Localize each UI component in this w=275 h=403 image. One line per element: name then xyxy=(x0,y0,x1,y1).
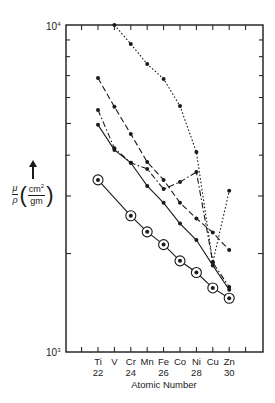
point-marker xyxy=(178,259,182,263)
point-marker xyxy=(194,238,198,242)
point-marker xyxy=(162,187,166,191)
element-symbol-label: Co xyxy=(174,356,186,367)
atomic-number-label: 26 xyxy=(158,367,169,378)
element-symbol-label: Ni xyxy=(192,356,201,367)
point-marker xyxy=(178,222,182,226)
element-symbol-label: Zn xyxy=(224,356,235,367)
data-series xyxy=(93,23,234,303)
point-marker xyxy=(145,160,149,164)
point-marker xyxy=(129,132,133,136)
point-marker xyxy=(129,214,133,218)
series-circled xyxy=(93,175,234,303)
point-marker xyxy=(112,23,116,27)
point-marker xyxy=(96,108,100,112)
point-marker xyxy=(227,288,231,292)
open-paren: ( xyxy=(19,184,26,206)
atomic-number-label: 22 xyxy=(93,367,104,378)
element-symbol-label: V xyxy=(111,356,118,367)
point-marker xyxy=(162,178,166,182)
atomic-number-label: 30 xyxy=(224,367,235,378)
point-marker xyxy=(129,42,133,46)
y-axis-title: μ ρ ( cm2 gm ) xyxy=(8,160,58,206)
point-marker xyxy=(211,230,215,234)
point-marker xyxy=(194,271,198,275)
mass-attenuation-fraction: μ ρ xyxy=(12,184,19,205)
point-marker xyxy=(227,248,231,252)
element-symbol-label: Ti xyxy=(94,356,102,367)
series-line xyxy=(98,125,229,290)
point-marker xyxy=(96,76,100,80)
series-dotted xyxy=(112,23,231,264)
element-symbol-label: Fe xyxy=(158,356,169,367)
point-marker xyxy=(96,178,100,182)
point-marker xyxy=(162,243,166,247)
point-marker xyxy=(145,62,149,66)
point-marker xyxy=(145,230,149,234)
point-marker xyxy=(211,263,215,267)
element-symbol-label: Cr xyxy=(126,356,136,367)
point-marker xyxy=(162,77,166,81)
atomic-number-label: 28 xyxy=(191,367,202,378)
y-tick-label-bottom: 103 xyxy=(46,347,61,358)
up-arrow-shaft xyxy=(32,167,34,179)
point-marker xyxy=(96,123,100,127)
x-axis-tick-labels: Ti22VCr24MnFe26CoNi28CuZn30 xyxy=(93,356,235,378)
point-marker xyxy=(194,150,198,154)
point-marker xyxy=(145,167,149,171)
point-marker xyxy=(227,296,231,300)
point-marker xyxy=(129,161,133,165)
y-tick-label-top: 104 xyxy=(46,21,61,32)
atomic-number-label: 24 xyxy=(126,367,137,378)
up-arrow-icon xyxy=(29,160,37,167)
point-marker xyxy=(194,170,198,174)
series-line xyxy=(114,25,229,262)
y-axis-formula: μ ρ ( cm2 gm ) xyxy=(8,183,58,206)
series-line xyxy=(98,78,229,250)
point-marker xyxy=(178,201,182,205)
point-marker xyxy=(112,148,116,152)
point-marker xyxy=(112,105,116,109)
series-long-dash xyxy=(96,76,231,252)
close-paren: ) xyxy=(46,184,53,206)
element-symbol-label: Cu xyxy=(207,356,219,367)
x-axis-title: Atomic Number xyxy=(131,379,196,390)
point-marker xyxy=(227,189,231,193)
point-marker xyxy=(178,104,182,108)
point-marker xyxy=(162,201,166,205)
point-marker xyxy=(178,180,182,184)
element-symbol-label: Mn xyxy=(141,356,154,367)
unit-fraction: cm2 gm xyxy=(28,183,45,206)
point-marker xyxy=(194,217,198,221)
point-marker xyxy=(211,286,215,290)
point-marker xyxy=(145,184,149,188)
